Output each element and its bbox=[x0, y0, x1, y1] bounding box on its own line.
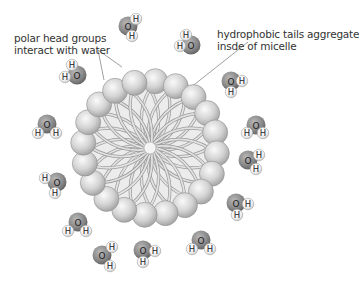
water-molecule: OHH bbox=[134, 241, 161, 268]
hydrogen-symbol: H bbox=[65, 226, 71, 236]
oxygen-symbol: O bbox=[197, 236, 204, 246]
hydrogen-symbol: H bbox=[228, 87, 234, 97]
hydrogen-symbol: H bbox=[245, 199, 251, 209]
water-molecule: OHH bbox=[32, 115, 62, 139]
hydrogen-symbol: H bbox=[107, 261, 113, 271]
water-molecule: OHH bbox=[186, 231, 216, 255]
hydrogen-symbol: H bbox=[140, 257, 146, 267]
oxygen-symbol: O bbox=[232, 199, 239, 209]
hydrogen-symbol: H bbox=[83, 226, 89, 236]
hydrophobic-tail-label: hydrophobic tails aggregate insde of mic… bbox=[217, 28, 359, 52]
hydrogen-symbol: H bbox=[239, 76, 245, 86]
hydrogen-symbol: H bbox=[189, 244, 195, 254]
hydrogen-symbol: H bbox=[207, 244, 213, 254]
oxygen-symbol: O bbox=[227, 77, 234, 87]
hydrogen-symbol: H bbox=[69, 60, 75, 70]
hydrogen-symbol: H bbox=[253, 164, 259, 174]
oxygen-symbol: O bbox=[139, 246, 146, 256]
hydrogen-symbol: H bbox=[177, 41, 183, 51]
polar-head-label: polar head groups interact with water bbox=[14, 32, 110, 56]
hydrophobic-tail-label-line1: hydrophobic tails aggregate bbox=[217, 28, 359, 40]
micelle-center bbox=[144, 142, 156, 154]
hydrogen-symbol: H bbox=[183, 30, 189, 40]
water-molecule: OHH bbox=[59, 59, 86, 84]
water-molecule: OHH bbox=[239, 149, 265, 175]
polar-head-label-line2: interact with water bbox=[14, 44, 110, 56]
hydrogen-symbol: H bbox=[53, 128, 59, 138]
oxygen-symbol: O bbox=[73, 71, 80, 81]
hydrogen-symbol: H bbox=[152, 246, 158, 256]
oxygen-symbol: O bbox=[43, 120, 50, 130]
oxygen-symbol: O bbox=[53, 178, 60, 188]
hydrogen-symbol: H bbox=[62, 72, 68, 82]
hydrophobic-tail-label-line2: insde of micelle bbox=[217, 40, 359, 52]
hydrogen-symbol: H bbox=[234, 210, 240, 220]
polar-head-label-line1: polar head groups bbox=[14, 32, 110, 44]
hydrogen-symbol: H bbox=[256, 150, 262, 160]
hydrogen-symbol: H bbox=[244, 128, 250, 138]
polar-head-sphere bbox=[122, 70, 147, 95]
water-molecule: OHH bbox=[227, 194, 254, 221]
oxygen-symbol: O bbox=[124, 22, 131, 32]
water-molecule: OHH bbox=[222, 72, 248, 98]
oxygen-symbol: O bbox=[74, 218, 81, 228]
water-molecule: OHH bbox=[119, 13, 142, 42]
oxygen-symbol: O bbox=[98, 251, 105, 261]
hydrogen-symbol: H bbox=[129, 31, 135, 41]
water-molecule: OHH bbox=[62, 213, 92, 237]
water-molecule: OHH bbox=[93, 241, 118, 272]
micelle bbox=[71, 69, 230, 228]
oxygen-symbol: O bbox=[244, 156, 251, 166]
water-molecule: OHH bbox=[241, 116, 269, 139]
hydrogen-symbol: H bbox=[35, 128, 41, 138]
hydrogen-symbol: H bbox=[133, 14, 139, 24]
hydrogen-symbol: H bbox=[109, 242, 115, 252]
water-molecule: OHH bbox=[174, 29, 200, 54]
hydrogen-symbol: H bbox=[260, 128, 266, 138]
water-molecule: OHH bbox=[39, 172, 66, 199]
oxygen-symbol: O bbox=[187, 41, 194, 51]
hydrogen-symbol: H bbox=[52, 188, 58, 198]
hydrogen-symbol: H bbox=[42, 173, 48, 183]
